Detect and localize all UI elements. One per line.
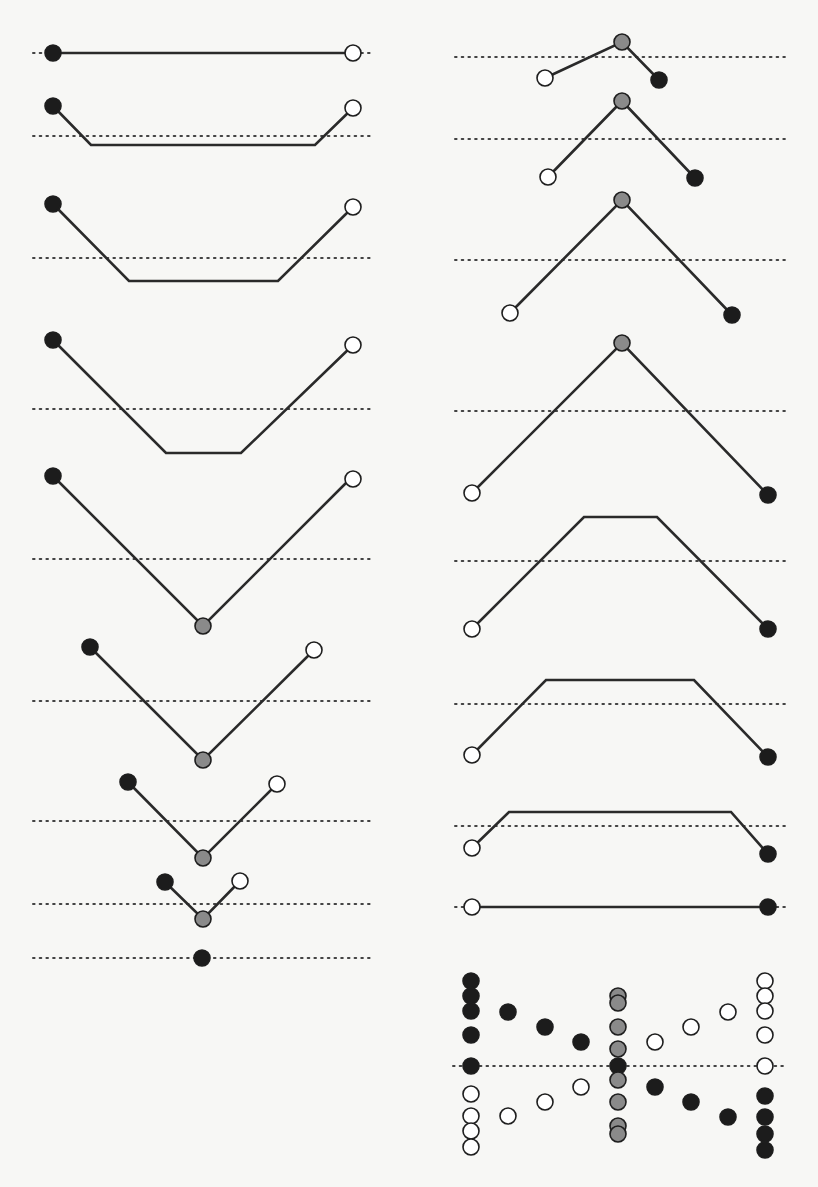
filled-node-icon	[687, 170, 703, 186]
junction-node-icon	[610, 1072, 626, 1088]
filled-node-icon	[683, 1094, 699, 1110]
filled-node-icon	[573, 1034, 589, 1050]
open-node-icon	[502, 305, 518, 321]
panel-L2	[33, 98, 372, 145]
open-node-icon	[757, 1003, 773, 1019]
panel-L9	[33, 950, 372, 966]
string-path	[472, 517, 768, 629]
panel-L8	[33, 873, 372, 927]
junction-node-icon	[195, 850, 211, 866]
filled-node-icon	[463, 973, 479, 989]
panel-L3	[33, 196, 372, 281]
junction-node-icon	[610, 1126, 626, 1142]
open-node-icon	[757, 1027, 773, 1043]
open-node-icon	[720, 1004, 736, 1020]
filled-node-icon	[45, 45, 61, 61]
junction-node-icon	[610, 995, 626, 1011]
open-node-icon	[464, 485, 480, 501]
filled-node-icon	[463, 1003, 479, 1019]
junction-node-icon	[614, 335, 630, 351]
junction-node-icon	[195, 618, 211, 634]
panel-L1	[33, 45, 372, 61]
panel-L5	[33, 468, 372, 634]
open-node-icon	[757, 1058, 773, 1074]
panel-R6	[455, 680, 788, 765]
open-node-icon	[345, 45, 361, 61]
panel-R4	[455, 335, 788, 503]
string-path	[472, 343, 768, 495]
junction-node-icon	[614, 93, 630, 109]
left-column-panels	[33, 45, 372, 966]
node-position-scatter	[453, 973, 787, 1158]
open-node-icon	[537, 1094, 553, 1110]
open-node-icon	[306, 642, 322, 658]
open-node-icon	[345, 100, 361, 116]
filled-node-icon	[82, 639, 98, 655]
open-node-icon	[464, 621, 480, 637]
filled-node-icon	[720, 1109, 736, 1125]
filled-node-icon	[647, 1079, 663, 1095]
panel-R7	[455, 812, 788, 862]
filled-node-icon	[760, 749, 776, 765]
open-node-icon	[463, 1086, 479, 1102]
filled-node-icon	[194, 950, 210, 966]
junction-node-icon	[614, 192, 630, 208]
string-path	[545, 42, 659, 80]
open-node-icon	[345, 337, 361, 353]
panel-L6	[33, 639, 372, 768]
open-node-icon	[463, 1139, 479, 1155]
filled-node-icon	[760, 899, 776, 915]
open-node-icon	[500, 1108, 516, 1124]
open-node-icon	[464, 840, 480, 856]
open-node-icon	[464, 899, 480, 915]
filled-node-icon	[760, 487, 776, 503]
filled-node-icon	[463, 988, 479, 1004]
open-node-icon	[345, 199, 361, 215]
string-path	[472, 812, 768, 854]
panel-R1	[455, 34, 788, 88]
filled-node-icon	[120, 774, 136, 790]
string-path	[53, 204, 353, 281]
open-node-icon	[345, 471, 361, 487]
junction-node-icon	[610, 1019, 626, 1035]
panel-L7	[33, 774, 372, 866]
filled-node-icon	[757, 1126, 773, 1142]
filled-node-icon	[760, 621, 776, 637]
junction-node-icon	[610, 1041, 626, 1057]
junction-node-icon	[614, 34, 630, 50]
open-node-icon	[464, 747, 480, 763]
open-node-icon	[463, 1108, 479, 1124]
junction-node-icon	[195, 911, 211, 927]
filled-node-icon	[45, 468, 61, 484]
filled-node-icon	[537, 1019, 553, 1035]
filled-node-icon	[724, 307, 740, 323]
string-path	[53, 106, 353, 145]
filled-node-icon	[500, 1004, 516, 1020]
open-node-icon	[757, 988, 773, 1004]
string-path	[472, 680, 768, 757]
filled-node-icon	[651, 72, 667, 88]
junction-node-icon	[195, 752, 211, 768]
open-node-icon	[683, 1019, 699, 1035]
string-path	[90, 647, 314, 760]
filled-node-icon	[45, 98, 61, 114]
filled-node-icon	[760, 846, 776, 862]
filled-node-icon	[757, 1142, 773, 1158]
string-path	[53, 340, 353, 453]
open-node-icon	[232, 873, 248, 889]
open-node-icon	[647, 1034, 663, 1050]
open-node-icon	[573, 1079, 589, 1095]
panel-R5	[455, 517, 788, 637]
filled-node-icon	[157, 874, 173, 890]
filled-node-icon	[45, 196, 61, 212]
panel-R8	[455, 899, 788, 915]
filled-node-icon	[463, 1058, 479, 1074]
filled-node-icon	[757, 1088, 773, 1104]
junction-node-icon	[610, 1094, 626, 1110]
filled-node-icon	[463, 1027, 479, 1043]
filled-node-icon	[45, 332, 61, 348]
configuration-diagram	[0, 0, 818, 1187]
right-column-panels	[455, 34, 788, 915]
open-node-icon	[269, 776, 285, 792]
panel-R2	[455, 93, 788, 186]
